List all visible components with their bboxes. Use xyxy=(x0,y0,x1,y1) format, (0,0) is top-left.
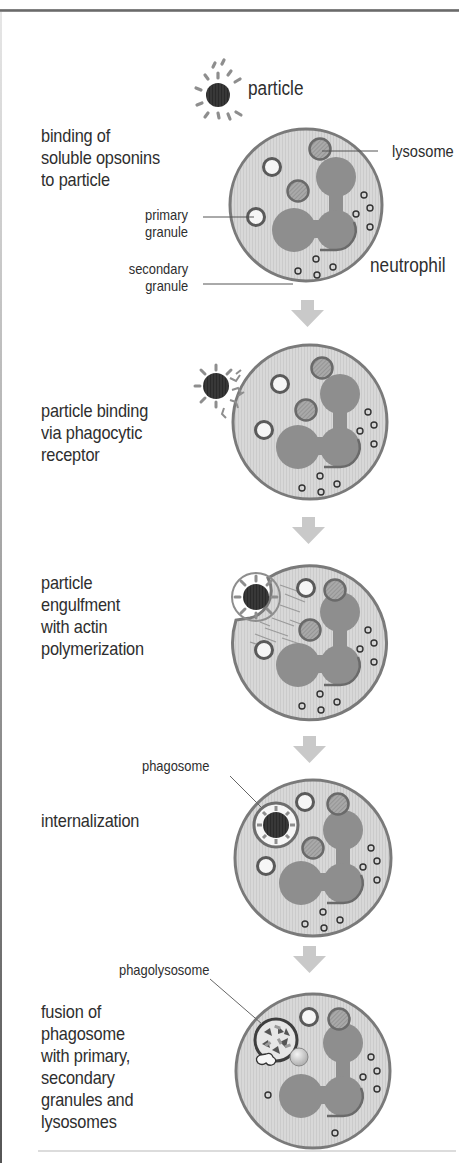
phagosome xyxy=(254,803,298,847)
down-arrow-1 xyxy=(291,300,324,327)
phagolysosome-label: phagolysosome xyxy=(119,961,209,978)
neutrophil-label: neutrophil xyxy=(370,257,446,274)
down-arrow-4 xyxy=(293,946,326,973)
step-4-label: internalization xyxy=(41,810,139,832)
phagosome-label: phagosome xyxy=(142,757,209,774)
phagosome-leader xyxy=(230,776,262,808)
step-2-label: particle binding via phagocytic receptor xyxy=(41,400,148,466)
particle-label: particle xyxy=(248,80,303,97)
engulfing-particle xyxy=(232,573,280,621)
step-3-label: particle engulfment with actin polymeriz… xyxy=(41,572,144,660)
step-1-label: binding of soluble opsonins to particle xyxy=(41,125,160,191)
phagolysosome-leader xyxy=(210,979,262,1024)
particle-with-opsonins xyxy=(196,60,241,119)
down-arrow-3 xyxy=(293,736,326,763)
step-1-cell xyxy=(230,129,382,281)
secondary-granule-label: secondary granule xyxy=(128,260,188,294)
primary-granule-label: primary granule xyxy=(145,206,188,240)
step-5-cell xyxy=(236,994,390,1148)
down-arrow-2 xyxy=(292,517,325,544)
step-2-cell xyxy=(233,345,387,499)
step-5-label: fusion of phagosome with primary, second… xyxy=(41,1001,133,1133)
step-4-cell xyxy=(235,780,391,936)
lysosome-label: lysosome xyxy=(392,143,454,160)
